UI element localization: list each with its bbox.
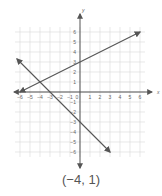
y-tick-label: 2 (73, 69, 76, 75)
answer-caption: (−4, 1) (0, 172, 162, 187)
y-tick-label: 1 (73, 79, 76, 85)
x-tick-label: 1 (89, 94, 92, 100)
y-tick-label: −6 (70, 149, 76, 155)
y-tick-label: −5 (70, 139, 76, 145)
x-tick-label: 6 (139, 94, 142, 100)
x-tick-label: −2 (57, 94, 63, 100)
line-2 (17, 59, 110, 152)
x-tick-label: 0 (76, 94, 79, 100)
y-tick-label: −1 (70, 99, 76, 105)
x-tick-label: 5 (129, 94, 132, 100)
y-tick-label: −4 (70, 129, 76, 135)
coordinate-graph: xy−6−5−4−3−2−10123456−6−5−4−3−2−1123456 (0, 0, 162, 172)
x-tick-label: 3 (109, 94, 112, 100)
y-tick-label: 4 (73, 49, 76, 55)
x-tick-label: −4 (37, 94, 43, 100)
x-tick-label: 4 (119, 94, 122, 100)
x-tick-label: −6 (17, 94, 23, 100)
x-tick-label: 2 (99, 94, 102, 100)
y-axis-label: y (81, 7, 85, 13)
y-tick-label: −2 (70, 109, 76, 115)
x-axis-label: x (156, 89, 160, 95)
y-tick-label: 6 (73, 29, 76, 35)
x-tick-label: −5 (27, 94, 33, 100)
y-tick-label: −3 (70, 119, 76, 125)
y-tick-label: 5 (73, 39, 76, 45)
